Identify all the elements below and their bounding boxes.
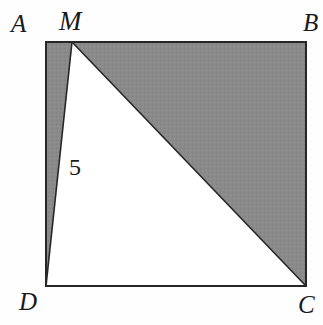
vertex-label-b: B bbox=[303, 10, 318, 35]
vertex-label-c: C bbox=[298, 292, 315, 317]
geometry-figure: A M B D C 5 bbox=[0, 0, 323, 325]
figure-canvas bbox=[0, 0, 323, 325]
segment-md-length-label: 5 bbox=[69, 155, 81, 179]
vertex-label-m: M bbox=[59, 8, 82, 35]
vertex-label-d: D bbox=[19, 289, 37, 314]
vertex-label-a: A bbox=[11, 11, 26, 36]
